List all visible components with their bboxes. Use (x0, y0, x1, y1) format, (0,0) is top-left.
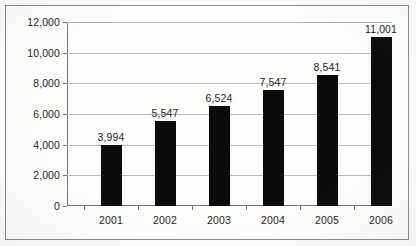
y-tick-0 (63, 206, 67, 207)
gridline-6000 (67, 114, 392, 115)
x-category-label-2006: 2006 (369, 214, 393, 226)
y-tick-label-8000: 8,000 (33, 77, 60, 89)
bar-label-2001: 3,994 (98, 131, 125, 143)
x-category-label-2005: 2005 (315, 214, 339, 226)
bar-2006[interactable] (371, 37, 392, 206)
bar-label-2003: 6,524 (206, 92, 233, 104)
bar-2002[interactable] (155, 121, 176, 206)
bar-2001[interactable] (101, 145, 122, 206)
plot-area: 12,000 10,000 8,000 6,000 4,000 2,000 0 (67, 22, 392, 206)
y-tick-2000 (63, 175, 67, 176)
bar-2003[interactable] (209, 106, 230, 206)
x-tick-1 (138, 206, 139, 210)
y-tick-8000 (63, 83, 67, 84)
y-tick-10000 (63, 53, 67, 54)
y-tick-label-0: 0 (54, 200, 60, 212)
gridline-10000 (67, 53, 392, 54)
bar-label-2005: 8,541 (314, 61, 341, 73)
x-tick-3 (246, 206, 247, 210)
x-tick-2 (192, 206, 193, 210)
x-category-label-2003: 2003 (207, 214, 231, 226)
bar-2004[interactable] (263, 90, 284, 206)
y-tick-label-10000: 10,000 (27, 47, 60, 59)
y-tick-label-12000: 12,000 (27, 16, 60, 28)
y-tick-6000 (63, 114, 67, 115)
x-category-label-2001: 2001 (99, 214, 123, 226)
x-category-label-2004: 2004 (261, 214, 285, 226)
gridline-12000 (67, 22, 392, 23)
x-tick-0 (84, 206, 85, 210)
gridline-8000 (67, 83, 392, 84)
bar-2005[interactable] (317, 75, 338, 206)
y-tick-4000 (63, 145, 67, 146)
x-tick-5 (354, 206, 355, 210)
bar-label-2002: 5,547 (152, 107, 179, 119)
bar-chart-figure: 12,000 10,000 8,000 6,000 4,000 2,000 0 (0, 0, 416, 246)
x-category-label-2002: 2002 (153, 214, 177, 226)
bar-label-2006: 11,001 (365, 23, 397, 35)
y-tick-label-6000: 6,000 (33, 108, 60, 120)
bar-label-2004: 7,547 (260, 76, 287, 88)
y-tick-12000 (63, 22, 67, 23)
y-tick-label-4000: 4,000 (33, 139, 60, 151)
x-tick-4 (300, 206, 301, 210)
y-tick-label-2000: 2,000 (33, 169, 60, 181)
